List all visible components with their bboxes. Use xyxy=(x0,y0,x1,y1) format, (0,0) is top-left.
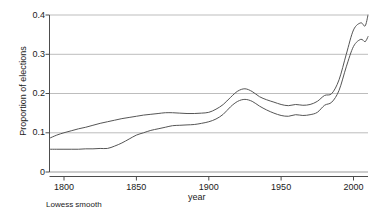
data-line xyxy=(50,15,369,138)
y-tick-marks-group xyxy=(46,15,50,172)
data-series-group xyxy=(50,15,369,149)
x-tick-label: 1900 xyxy=(189,182,229,192)
x-axis-label: year xyxy=(188,192,206,202)
x-tick-label: 1950 xyxy=(261,182,301,192)
y-tick-label: 0.4 xyxy=(20,10,45,20)
chart-figure: 00.10.20.30.4 18001850190019502000 Propo… xyxy=(0,0,380,223)
axis-lines-group xyxy=(50,15,369,177)
y-tick-label: 0 xyxy=(20,167,45,177)
x-tick-label: 2000 xyxy=(334,182,374,192)
y-axis-label: Proportion of elections xyxy=(18,21,28,161)
lowess-smooth-annotation: Lowess smooth xyxy=(46,200,102,210)
x-tick-marks-group xyxy=(64,177,354,181)
x-tick-label: 1850 xyxy=(116,182,156,192)
x-tick-label: 1800 xyxy=(44,182,84,192)
